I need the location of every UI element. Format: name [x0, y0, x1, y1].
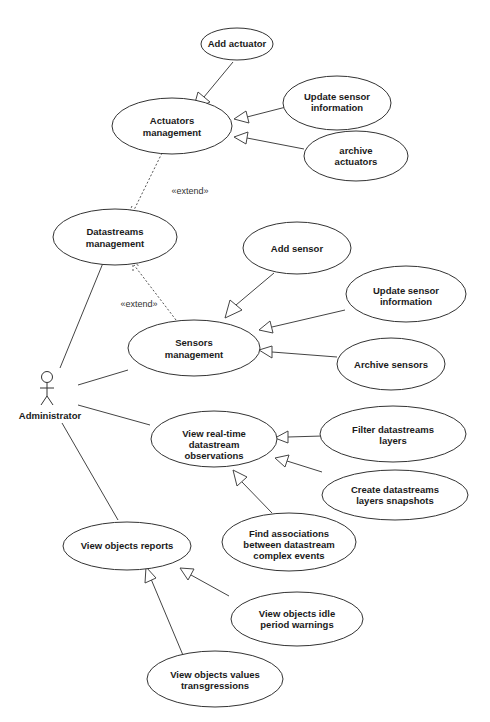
svg-text:layers snapshots: layers snapshots [356, 495, 434, 506]
gen-arrowhead [233, 470, 247, 486]
gen-snapshots [287, 461, 322, 472]
gen-update-2 [272, 310, 345, 327]
use-case-diagram: «extend» «extend» Add actuator Actuators… [0, 0, 490, 722]
assoc-admin-reports [62, 423, 118, 520]
svg-text:Datastreams: Datastreams [86, 226, 143, 237]
assoc-admin-realtime [78, 405, 150, 425]
svg-text:Add actuator: Add actuator [208, 38, 267, 49]
use-case-view-realtime-observations[interactable]: View real-time datastream observations [151, 411, 277, 467]
svg-text:archive: archive [339, 145, 372, 156]
svg-text:complex events: complex events [253, 550, 324, 561]
use-case-datastreams-management[interactable]: Datastreams management [53, 209, 177, 265]
gen-arrowhead [275, 455, 289, 467]
actor-label: Administrator [19, 410, 82, 421]
actor-administrator[interactable]: Administrator [19, 372, 82, 422]
gen-archive-actuators [247, 138, 304, 149]
gen-values-transgressions [151, 579, 185, 660]
gen-arrowhead [180, 568, 194, 580]
svg-text:information: information [380, 296, 432, 307]
extend-label-2: «extend» [120, 299, 157, 309]
svg-text:View real-time: View real-time [182, 428, 246, 439]
gen-idle-warnings [191, 575, 229, 596]
gen-arrowhead [259, 346, 272, 358]
actor-leg-left [41, 396, 47, 405]
use-case-values-transgressions[interactable]: View objects values transgressions [147, 651, 283, 707]
gen-add-sensor [236, 273, 274, 305]
svg-text:Sensors: Sensors [175, 337, 213, 348]
use-case-archive-actuators[interactable]: archive actuators [304, 131, 408, 181]
svg-text:View objects values: View objects values [170, 669, 260, 680]
svg-text:transgressions: transgressions [181, 680, 249, 691]
svg-text:Add sensor: Add sensor [271, 243, 324, 254]
svg-text:Find associations: Find associations [249, 528, 329, 539]
use-case-update-sensor-information-sensors[interactable]: Update sensor information [346, 266, 466, 322]
assoc-admin-sensors [78, 370, 128, 385]
actor-leg-right [47, 396, 53, 405]
use-case-update-sensor-information-actuators[interactable]: Update sensor information [283, 76, 391, 130]
svg-text:observations: observations [184, 450, 243, 461]
use-case-add-actuator[interactable]: Add actuator [201, 28, 273, 60]
gen-add-actuator [204, 62, 233, 97]
use-case-find-associations[interactable]: Find associations between datastream com… [222, 513, 356, 571]
svg-text:management: management [143, 127, 202, 138]
svg-text:Archive sensors: Archive sensors [354, 359, 428, 370]
actor-head-icon [42, 372, 53, 383]
svg-text:Update sensor: Update sensor [373, 285, 439, 296]
svg-text:Update sensor: Update sensor [304, 91, 370, 102]
svg-text:View objects idle: View objects idle [259, 608, 335, 619]
svg-text:between datastream: between datastream [243, 539, 334, 550]
gen-arrowhead [234, 111, 249, 123]
gen-filter [288, 436, 322, 437]
svg-text:Actuators: Actuators [150, 115, 194, 126]
svg-text:period warnings: period warnings [260, 619, 333, 630]
svg-text:Filter datastreams: Filter datastreams [352, 424, 434, 435]
svg-text:View objects reports: View objects reports [81, 540, 174, 551]
use-case-idle-period-warnings[interactable]: View objects idle period warnings [231, 592, 363, 646]
gen-arrowhead [234, 132, 248, 144]
use-case-filter-datastreams-layers[interactable]: Filter datastreams layers [320, 406, 466, 462]
extend-label-1: «extend» [171, 186, 208, 196]
assoc-admin-datastreams [60, 263, 103, 368]
extend-sensors [134, 265, 176, 320]
svg-text:layers: layers [379, 435, 406, 446]
svg-text:information: information [311, 102, 363, 113]
use-case-view-objects-reports[interactable]: View objects reports [63, 522, 191, 570]
svg-text:Create datastreams: Create datastreams [351, 484, 439, 495]
svg-text:actuators: actuators [335, 156, 378, 167]
gen-find-associations [242, 482, 272, 513]
svg-text:datastream: datastream [189, 439, 240, 450]
use-case-actuators-management[interactable]: Actuators management [112, 98, 232, 154]
use-case-create-layers-snapshots[interactable]: Create datastreams layers snapshots [322, 470, 468, 520]
gen-arrowhead [259, 321, 273, 333]
svg-text:management: management [165, 349, 224, 360]
use-case-sensors-management[interactable]: Sensors management [128, 320, 260, 376]
gen-archive-sensors [272, 352, 337, 357]
svg-text:management: management [86, 238, 145, 249]
use-case-add-sensor[interactable]: Add sensor [243, 222, 351, 274]
gen-update-1 [247, 107, 286, 117]
extend-actuators [134, 153, 162, 210]
use-case-archive-sensors[interactable]: Archive sensors [337, 338, 445, 390]
